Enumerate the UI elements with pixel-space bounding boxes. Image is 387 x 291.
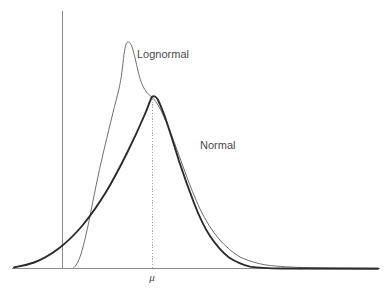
lognormal-curve [74, 42, 379, 268]
mu-tick-label: μ [148, 271, 155, 283]
normal-label: Normal [200, 139, 235, 151]
normal-curve [14, 96, 378, 269]
lognormal-vs-normal-distribution-chart: Lognormal Normal μ [0, 0, 387, 291]
chart-canvas: Lognormal Normal μ [0, 0, 387, 291]
lognormal-label: Lognormal [137, 48, 189, 60]
